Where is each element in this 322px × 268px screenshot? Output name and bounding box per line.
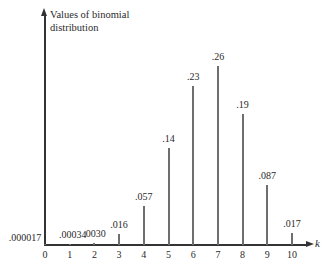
value-label-k-5: .14: [162, 133, 175, 144]
x-tick-0: 0: [43, 249, 48, 260]
value-label-k-3: .016: [110, 219, 128, 230]
value-label-k-8: .19: [236, 99, 249, 110]
y-axis-title-text: Values of binomial distribution: [50, 8, 150, 34]
x-tick-6: 6: [191, 249, 196, 260]
x-axis-arrow-icon: [306, 241, 314, 247]
x-tick-4: 4: [141, 249, 146, 260]
y-axis: [44, 14, 46, 245]
bar-k-10: [291, 233, 293, 245]
bar-k-7: [217, 66, 219, 245]
x-tick-1: 1: [67, 249, 72, 260]
bar-k-5: [168, 148, 170, 245]
bar-k-8: [242, 114, 244, 245]
value-label-k-10: .017: [283, 218, 301, 229]
bar-k-6: [192, 86, 194, 245]
x-tick-9: 9: [265, 249, 270, 260]
y-axis-title: Values of binomial distribution: [50, 8, 150, 34]
x-tick-10: 10: [287, 249, 297, 260]
value-label-k-2: .0030: [83, 228, 106, 239]
x-tick-8: 8: [240, 249, 245, 260]
value-label-k-6: .23: [187, 71, 200, 82]
bar-k-4: [143, 206, 145, 245]
x-axis-label: k: [315, 237, 320, 249]
bar-k-3: [118, 234, 120, 245]
bar-k-2: [93, 243, 95, 245]
value-label-k-9: .087: [259, 170, 277, 181]
value-label-k-0: .000017: [9, 232, 42, 243]
x-tick-7: 7: [215, 249, 220, 260]
bar-k-9: [266, 185, 268, 245]
x-tick-2: 2: [92, 249, 97, 260]
x-tick-5: 5: [166, 249, 171, 260]
value-label-k-4: .057: [135, 191, 153, 202]
value-label-k-7: .26: [212, 51, 225, 62]
y-axis-arrow-icon: [41, 8, 47, 16]
bar-k-0: [44, 244, 46, 245]
x-tick-3: 3: [117, 249, 122, 260]
x-axis: [44, 244, 308, 246]
bar-k-1: [69, 244, 71, 245]
binomial-distribution-chart: Values of binomial distribution k .00001…: [0, 0, 322, 268]
